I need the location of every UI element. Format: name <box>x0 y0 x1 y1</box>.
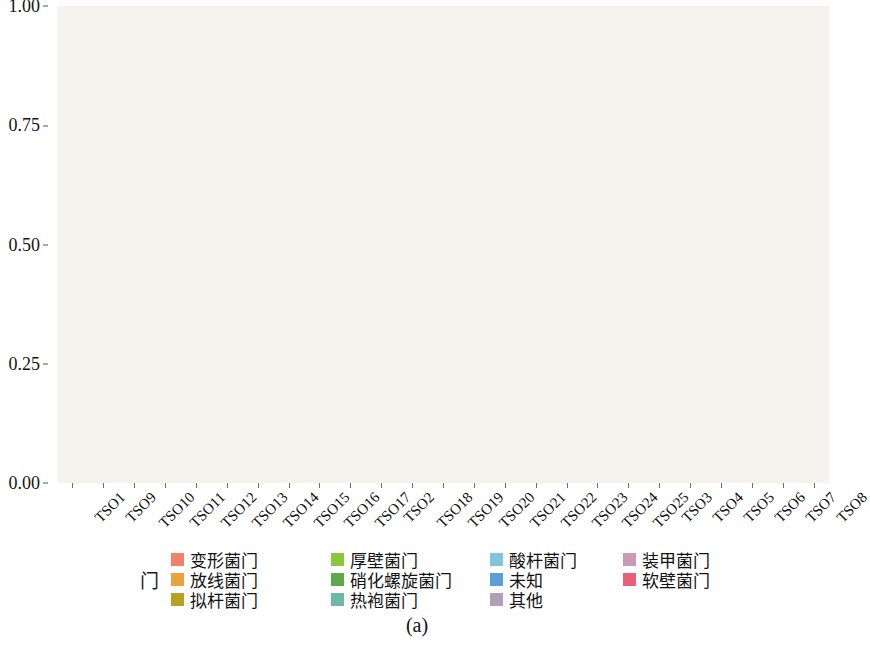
y-axis-ticks: 0.000.250.500.751.00 <box>0 0 56 500</box>
legend-swatch-icon <box>331 593 344 606</box>
x-tick-mark <box>505 483 506 488</box>
x-tick-mark <box>72 483 73 488</box>
x-tick-mark <box>536 483 537 488</box>
legend-column-4: 装甲菌门软壁菌门 <box>623 550 740 589</box>
x-tick-mark <box>721 483 722 488</box>
bar-slot <box>612 6 643 483</box>
x-tick-mark <box>227 483 228 488</box>
legend-column-3: 酸杆菌门未知其他 <box>490 550 598 609</box>
x-tick-mark <box>319 483 320 488</box>
bar-slot <box>458 6 489 483</box>
bar-slot <box>274 6 305 483</box>
figure-caption: (a) <box>0 614 834 637</box>
x-tick-mark <box>752 483 753 488</box>
x-tick-mark <box>474 483 475 488</box>
bar-slot <box>673 6 704 483</box>
bar-slot <box>366 6 397 483</box>
legend-swatch-icon <box>490 593 503 606</box>
x-tick-mark <box>567 483 568 488</box>
x-tick-mark <box>628 483 629 488</box>
bar-slot <box>704 6 735 483</box>
x-tick-mark <box>134 483 135 488</box>
x-tick-label-TSO8: TSO8 <box>833 489 870 526</box>
legend-label: 拟杆菌门 <box>190 587 258 612</box>
x-tick-label-TSO9: TSO9 <box>123 489 160 526</box>
legend-column-1: 变形菌门放线菌门拟杆菌门 <box>171 550 307 609</box>
legend-item[interactable]: 拟杆菌门 <box>171 590 307 609</box>
bar-slot <box>90 6 121 483</box>
bar-slot <box>213 6 244 483</box>
x-tick-label-TSO5: TSO5 <box>740 489 777 526</box>
bar-slot <box>428 6 459 483</box>
legend-swatch-icon <box>171 593 184 606</box>
legend-swatch-icon <box>171 573 184 586</box>
x-tick-mark <box>103 483 104 488</box>
bar-slot <box>397 6 428 483</box>
x-tick-mark <box>443 483 444 488</box>
legend-title: 门 <box>140 566 159 593</box>
bar-slot <box>796 6 827 483</box>
y-tick-label: 0.75 <box>9 115 49 136</box>
bar-slot <box>766 6 797 483</box>
x-tick-mark <box>165 483 166 488</box>
bar-slot <box>120 6 151 483</box>
legend-label: 热袍菌门 <box>350 587 418 612</box>
x-tick-mark <box>196 483 197 488</box>
x-tick-mark <box>814 483 815 488</box>
x-tick-mark <box>350 483 351 488</box>
bar-slot <box>59 6 90 483</box>
legend-item[interactable]: 热袍菌门 <box>331 590 467 609</box>
bar-slot <box>243 6 274 483</box>
legend-swatch-icon <box>490 573 503 586</box>
legend-swatch-icon <box>331 573 344 586</box>
legend-item[interactable]: 软壁菌门 <box>623 570 740 589</box>
x-tick-label-TSO7: TSO7 <box>802 489 839 526</box>
legend-item[interactable]: 酸杆菌门 <box>490 550 598 569</box>
x-axis-labels: TSO1TSO9TSO10TSO11TSO12TSO13TSO14TSO15TS… <box>57 489 829 551</box>
bar-slot <box>520 6 551 483</box>
legend-swatch-icon <box>331 553 344 566</box>
y-tick-label: 1.00 <box>9 0 49 17</box>
stacked-bars-container <box>57 6 829 483</box>
bar-slot <box>551 6 582 483</box>
legend-swatch-icon <box>171 553 184 566</box>
x-tick-mark <box>258 483 259 488</box>
x-tick-mark <box>597 483 598 488</box>
plot-area <box>57 6 829 483</box>
bar-slot <box>735 6 766 483</box>
x-tick-mark <box>412 483 413 488</box>
bar-slot <box>581 6 612 483</box>
bar-slot <box>489 6 520 483</box>
bar-slot <box>643 6 674 483</box>
y-tick-label: 0.50 <box>9 234 49 255</box>
bar-slot <box>335 6 366 483</box>
legend-swatch-icon <box>623 573 636 586</box>
x-tick-mark <box>289 483 290 488</box>
legend-item[interactable]: 未知 <box>490 570 598 589</box>
x-tick-mark <box>690 483 691 488</box>
legend-swatch-icon <box>623 553 636 566</box>
x-tick-label-TSO1: TSO1 <box>92 489 129 526</box>
x-tick-mark <box>783 483 784 488</box>
legend-label: 其他 <box>509 587 543 612</box>
y-tick-label: 0.00 <box>9 473 49 494</box>
legend-label: 软壁菌门 <box>642 567 710 592</box>
legend-swatch-icon <box>490 553 503 566</box>
bar-slot <box>151 6 182 483</box>
legend-column-2: 厚壁菌门硝化螺旋菌门热袍菌门 <box>331 550 467 609</box>
bar-slot <box>182 6 213 483</box>
x-tick-mark <box>659 483 660 488</box>
x-tick-label-TSO4: TSO4 <box>710 489 747 526</box>
x-tick-label-TSO6: TSO6 <box>771 489 808 526</box>
y-tick-label: 0.25 <box>9 353 49 374</box>
bar-slot <box>305 6 336 483</box>
legend: 门 变形菌门放线菌门拟杆菌门 厚壁菌门硝化螺旋菌门热袍菌门 酸杆菌门未知其他 装… <box>140 550 740 612</box>
x-tick-mark <box>381 483 382 488</box>
legend-item[interactable]: 其他 <box>490 590 598 609</box>
